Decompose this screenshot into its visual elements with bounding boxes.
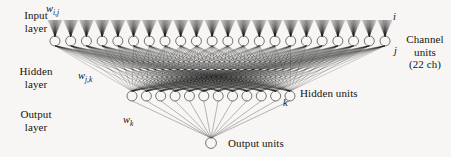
channel-units-line1: Channel [400,33,450,46]
input-layer-label-line2: layer [10,22,62,35]
hidden-layer-label-line1: Hidden [10,65,62,78]
channel-units-line3: (22 ch) [400,58,450,71]
weight-subscript-jk: j,k [85,75,92,84]
output-units-annotation: Output units [228,137,284,150]
network-graphic [0,0,451,157]
weight-subscript-ij: i,j [53,8,59,17]
hidden-units-annotation: Hidden units [300,87,358,100]
output-layer-label-line2: layer [10,121,62,134]
weight-label-hidden-output: wk [123,114,133,128]
weight-symbol-k: w [123,114,130,125]
hidden-layer-label: Hidden layer [10,65,62,90]
index-label-j: j [394,45,397,56]
output-layer-label-line1: Output [10,108,62,121]
weight-subscript-k: k [130,119,133,128]
weight-symbol-ij: w [46,3,53,14]
neural-network-diagram: Input layer Hidden layer Output layer wi… [0,0,451,157]
channel-units-line2: units [400,46,450,59]
weight-label-input-hidden: wi,j [46,3,59,17]
hidden-layer-label-line2: layer [10,78,62,91]
weight-label-hidden-hidden: wj,k [78,70,92,84]
output-layer-label: Output layer [10,108,62,133]
channel-units-annotation: Channel units (22 ch) [400,33,450,71]
weight-symbol-jk: w [78,70,85,81]
index-label-i: i [393,11,396,22]
index-label-k: k [283,97,288,108]
